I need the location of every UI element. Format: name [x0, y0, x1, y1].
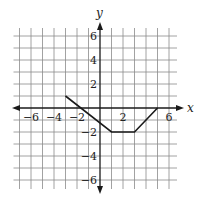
y-tick-label: −4 — [81, 150, 97, 163]
x-tick-label: −6 — [23, 111, 39, 124]
y-tick-label: 6 — [90, 30, 97, 43]
y-axis-down-arrow-icon — [97, 186, 103, 194]
x-axis-right-arrow-icon — [176, 105, 184, 111]
y-tick-label: −2 — [81, 126, 97, 139]
coordinate-plane: x y −6−4−226 642−2−4−6 — [0, 0, 204, 206]
x-tick-label: −4 — [46, 111, 62, 124]
y-tick-label: 2 — [90, 78, 97, 91]
y-axis-up-arrow-icon — [97, 22, 103, 30]
x-axis-label: x — [187, 101, 194, 115]
x-tick-label: 6 — [166, 111, 173, 124]
x-tick-label: 2 — [120, 111, 127, 124]
y-tick-label: −6 — [81, 174, 97, 187]
x-tick-label: −2 — [69, 111, 85, 124]
x-axis-left-arrow-icon — [12, 105, 20, 111]
y-axis-label: y — [95, 6, 103, 20]
y-tick-label: 4 — [90, 54, 97, 67]
axes: x y — [12, 6, 194, 194]
